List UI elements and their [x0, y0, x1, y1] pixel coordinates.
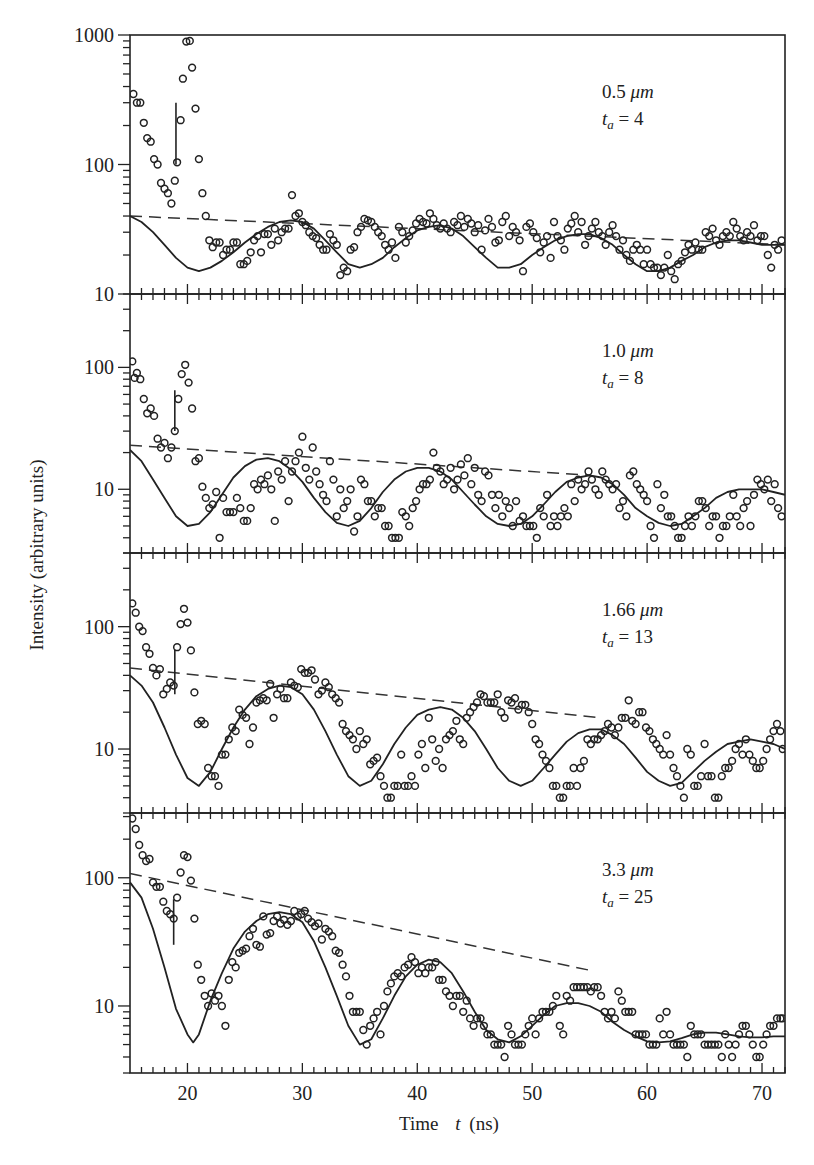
panel-label-ta: ta = 4 [602, 108, 644, 132]
data-point [374, 1008, 381, 1015]
data-point [658, 505, 665, 512]
data-point [609, 222, 616, 229]
data-point [182, 361, 189, 368]
data-point [191, 689, 198, 696]
data-point [687, 751, 694, 758]
data-point [319, 936, 326, 943]
data-point [612, 1015, 619, 1022]
thickness-unit: μm [639, 599, 663, 620]
data-point [670, 765, 677, 772]
data-point [620, 498, 627, 505]
data-point [451, 486, 458, 493]
data-point [237, 505, 244, 512]
data-point [656, 1015, 663, 1022]
data-point [337, 486, 344, 493]
data-point [302, 464, 309, 471]
data-point [289, 192, 296, 199]
data-point [513, 498, 520, 505]
data-point [718, 773, 725, 780]
panel-label-ta: ta = 13 [602, 626, 653, 650]
data-point [516, 237, 523, 244]
x-tick-label: 30 [292, 1082, 312, 1104]
plot-area [129, 600, 786, 801]
data-point [351, 528, 358, 535]
data-point [508, 1031, 515, 1038]
data-point [571, 213, 578, 220]
thickness-value: 1.0 [602, 340, 631, 361]
data-point [494, 691, 501, 698]
data-point [398, 751, 405, 758]
data-point [367, 1022, 374, 1029]
data-point [392, 255, 399, 262]
data-point [502, 498, 509, 505]
data-point [377, 1031, 384, 1038]
data-point [356, 728, 363, 735]
data-point [225, 976, 232, 983]
plot-area [130, 38, 785, 283]
data-point [733, 225, 740, 232]
data-point [616, 505, 623, 512]
data-point [354, 513, 361, 520]
data-point [198, 976, 205, 983]
data-point [194, 961, 201, 968]
data-point [496, 491, 503, 498]
plot-area [129, 815, 786, 1060]
ta-value: = 13 [614, 626, 653, 647]
data-point [747, 523, 754, 530]
data-point [471, 229, 478, 236]
data-point [749, 758, 756, 765]
data-point [478, 498, 485, 505]
data-point [716, 534, 723, 541]
data-point [671, 276, 678, 283]
data-point [560, 1031, 567, 1038]
data-point [726, 513, 733, 520]
data-point [618, 997, 625, 1004]
data-point [219, 1003, 226, 1010]
data-point [399, 229, 406, 236]
data-point [177, 869, 184, 876]
data-point [413, 498, 420, 505]
x-axis-title-word: Time [399, 1113, 438, 1134]
data-point [185, 379, 192, 386]
data-point [215, 992, 222, 999]
data-point [339, 721, 346, 728]
data-point [506, 233, 513, 240]
data-point [692, 239, 699, 246]
data-point [777, 728, 784, 735]
data-point [154, 161, 161, 168]
data-point [412, 959, 419, 966]
data-point [337, 272, 344, 279]
data-point [668, 268, 675, 275]
data-point [775, 505, 782, 512]
panels: 1010010000.5 μmta = 4101001.0 μmta = 810… [74, 24, 786, 1073]
data-point [751, 491, 758, 498]
data-point [706, 523, 713, 530]
data-point [174, 159, 181, 166]
x-tick-label: 60 [637, 1082, 657, 1104]
data-point [191, 915, 198, 922]
data-point [571, 498, 578, 505]
data-point [275, 237, 282, 244]
data-point [268, 241, 275, 248]
data-point [192, 105, 199, 112]
data-point [174, 894, 181, 901]
data-point [568, 220, 575, 227]
data-point [623, 513, 630, 520]
data-point [551, 219, 558, 226]
data-point [339, 961, 346, 968]
data-point [544, 491, 551, 498]
data-point [561, 505, 568, 512]
data-point [458, 213, 465, 220]
data-point [613, 233, 620, 240]
x-tick-label: 50 [522, 1082, 542, 1104]
data-point [177, 621, 184, 628]
data-point [201, 992, 208, 999]
data-point [660, 1031, 667, 1038]
thickness-unit: μm [630, 340, 654, 361]
data-point [663, 1008, 670, 1015]
data-point [409, 505, 416, 512]
thickness-unit: μm [630, 81, 654, 102]
fit-curve [130, 882, 785, 1044]
data-point [506, 505, 513, 512]
data-point [199, 190, 206, 197]
